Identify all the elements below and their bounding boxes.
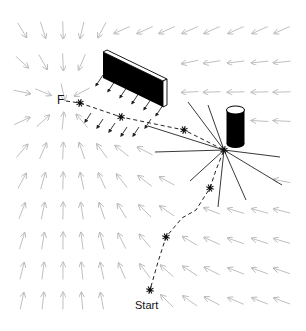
- diagram-svg: [0, 0, 306, 331]
- start-label: Start: [135, 299, 158, 311]
- cylinder-repulsion-rays: [148, 102, 282, 207]
- robot-marker-icon: [76, 99, 84, 107]
- robot-marker-icon: [180, 126, 188, 134]
- goal-label: F: [57, 93, 64, 107]
- robot-marker-icon: [162, 233, 170, 241]
- robot-marker-icon: [146, 286, 154, 294]
- robot-marker-icon: [117, 113, 125, 121]
- robot-markers: [76, 99, 228, 294]
- robot-marker-icon: [206, 184, 214, 192]
- cylinder-obstacle: [227, 106, 245, 148]
- robot-path: [66, 101, 224, 290]
- potential-field-diagram: F Start: [0, 0, 306, 331]
